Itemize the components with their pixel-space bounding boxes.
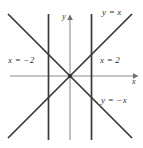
label-y-equals-x: y = x [102,8,122,17]
label-y-equals-neg-x: y = −x [101,96,127,105]
coordinate-plane-svg [0,0,143,148]
label-x-equals-2: x = 2 [100,56,120,65]
y-axis-arrowhead [67,15,73,21]
math-graph-figure: x = −2 x = 2 y = x y = −x y x [0,0,143,148]
label-x-equals-neg2: x = −2 [8,56,34,65]
y-axis-label: y [62,12,66,21]
x-axis-label: x [132,77,136,86]
origin-point [68,74,72,78]
